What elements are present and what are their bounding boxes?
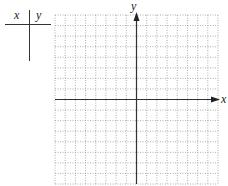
x-axis-arrow-icon: [211, 97, 220, 103]
x-axis: [55, 97, 220, 103]
x-axis-label: x: [221, 92, 226, 107]
y-axis-label: y: [131, 0, 136, 14]
coordinate-plane: x y: [0, 0, 228, 186]
y-axis: [134, 12, 140, 184]
grid-graph: [0, 0, 228, 186]
